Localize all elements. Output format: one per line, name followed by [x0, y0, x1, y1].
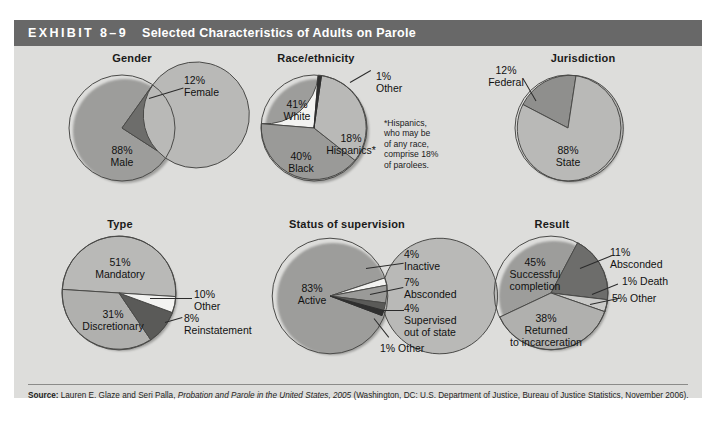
source-citation: Source: Lauren E. Glaze and Seri Palla, …: [28, 391, 700, 400]
exhibit-header-inner: EXHIBIT 8–9 Selected Characteristics of …: [28, 20, 416, 46]
exhibit-panel: EXHIBIT 8–9 Selected Characteristics of …: [14, 20, 702, 398]
exhibit-body: Gender 88% Male 12%: [14, 46, 702, 398]
chart-status-title: Status of supervision: [252, 218, 442, 230]
exhibit-number-label: EXHIBIT 8–9: [28, 26, 128, 40]
source-text-2: (Washington, DC: U.S. Department of Just…: [351, 391, 688, 400]
race-white-label: 41% White: [266, 98, 328, 122]
chart-race-title: Race/ethnicity: [236, 52, 396, 64]
gender-female-label: 12% Female: [184, 74, 219, 98]
chart-gender: Gender 88% Male 12%: [32, 52, 232, 202]
result-successful-label: 45% Successful completion: [488, 256, 582, 293]
race-footnote: *Hispanics, who may be of any race, comp…: [384, 118, 438, 170]
type-pie-svg: [62, 236, 176, 350]
status-supervised-leader: [382, 310, 404, 311]
exhibit-page: EXHIBIT 8–9 Selected Characteristics of …: [0, 0, 718, 421]
type-discretionary-label: 31% Discretionary: [60, 308, 166, 332]
chart-result: Result: [482, 218, 702, 378]
race-other-label: 1% Other: [376, 70, 402, 94]
source-title-italic: Probation and Parole in the United State…: [178, 391, 351, 400]
result-death-label: 1% Death: [622, 275, 668, 287]
type-other-label: 10% Other: [194, 288, 220, 312]
chart-status-of-supervision: Status of supervision: [252, 218, 492, 378]
chart-jurisdiction-title: Jurisdiction: [508, 52, 658, 64]
chart-type: Type 51%: [32, 218, 272, 378]
chart-type-pie: [62, 236, 176, 350]
status-absconded-label: 7% Absconded: [404, 276, 457, 300]
status-inactive-label: 4% Inactive: [404, 248, 440, 272]
chart-type-title: Type: [32, 218, 208, 230]
status-other-label: 1% Other: [380, 342, 424, 354]
type-reinstatement-label: 8% Reinstatement: [184, 312, 252, 336]
type-other-leader: [150, 298, 192, 299]
chart-race-ethnicity: Race/ethnicity: [236, 52, 472, 202]
chart-result-title: Result: [492, 218, 612, 230]
status-supervised-label: 4% Supervised out of state: [404, 302, 457, 339]
source-label: Source:: [28, 391, 58, 400]
jurisdiction-state-label: 88% State: [522, 144, 614, 168]
gender-male-label: 88% Male: [76, 144, 168, 168]
chart-jurisdiction: Jurisdiction 88% State: [470, 52, 690, 202]
result-returned-label: 38% Returned to incarceration: [484, 312, 608, 349]
type-mandatory-label: 51% Mandatory: [70, 256, 170, 280]
race-hispanics-label: 18% Hispanics*: [313, 132, 389, 156]
result-other-label: 5% Other: [612, 292, 656, 304]
exhibit-header-bar: EXHIBIT 8–9 Selected Characteristics of …: [14, 20, 702, 46]
exhibit-title: Selected Characteristics of Adults on Pa…: [142, 26, 416, 40]
footer-divider: [28, 384, 688, 385]
source-text-1: Lauren E. Glaze and Seri Palla,: [58, 391, 177, 400]
status-active-label: 83% Active: [274, 282, 350, 306]
result-absconded-label: 11% Absconded: [610, 246, 663, 270]
jurisdiction-federal-label: 12% Federal: [478, 64, 534, 88]
